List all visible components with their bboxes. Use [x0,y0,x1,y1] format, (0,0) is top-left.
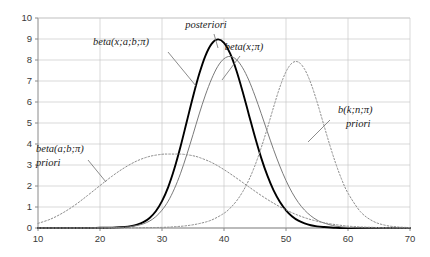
y-tick-label: 6 [27,96,32,107]
y-tick-label: 3 [27,159,32,170]
x-tick-label: 70 [405,233,416,244]
chart-svg: 012345678910 10203040506070 posterioribe… [0,0,430,257]
x-tick-labels: 10203040506070 [33,233,416,244]
x-tick-label: 50 [281,233,292,244]
beta-a-b-pi-label: beta(a;b;π) [36,143,84,155]
y-tick-label: 2 [27,180,32,191]
beta-a-b-pi-priori-label: priori [35,157,61,168]
leader-beta-a-b-pi [88,160,106,182]
x-tick-label: 60 [343,233,354,244]
beta-x-a-b-pi-label: beta(x;a;b;π) [93,36,149,48]
x-tick-label: 20 [95,233,106,244]
beta-x-pi-label: beta(x;π) [225,41,264,53]
y-tick-label: 7 [27,75,32,86]
chart-figure: 012345678910 10203040506070 posterioribe… [0,0,430,257]
curve-annotations: posterioribeta(x;a;b;π)beta(x;π)b(k;n;π)… [35,19,373,168]
x-tick-label: 10 [33,233,44,244]
y-tick-label: 5 [27,117,32,128]
b-k-n-pi-priori-label: priori [345,118,371,129]
y-tick-label: 0 [27,222,32,233]
y-tick-labels: 012345678910 [21,12,32,233]
leader-lines [88,34,330,182]
y-tick-label: 4 [27,138,32,149]
x-tick-label: 30 [157,233,168,244]
x-tick-label: 40 [219,233,230,244]
y-tick-label: 10 [21,12,32,23]
y-tick-label: 9 [27,33,32,44]
posteriori-label: posteriori [184,19,227,30]
y-tick-label: 8 [27,54,32,65]
b-k-n-pi-label: b(k;n;π) [338,104,373,116]
y-tick-label: 1 [27,201,32,212]
